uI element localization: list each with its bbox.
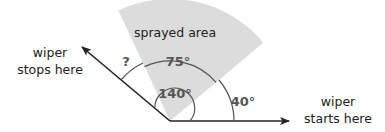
wiper-angle-diagram: sprayed area 75° 140° ? 40° wiper stops … [0,0,385,132]
sprayed-area-label: sprayed area [134,25,216,40]
angle-40-label: 40° [231,94,256,109]
wiper-stops-label-1: wiper [33,45,68,60]
angle-140-label: 140° [158,86,192,101]
wiper-starts-label-1: wiper [321,94,356,109]
angle-unknown-label: ? [122,54,130,69]
angle-75-label: 75° [166,54,191,69]
wiper-stops-label-2: stops here [17,62,83,77]
wiper-starts-label-2: starts here [304,111,372,126]
